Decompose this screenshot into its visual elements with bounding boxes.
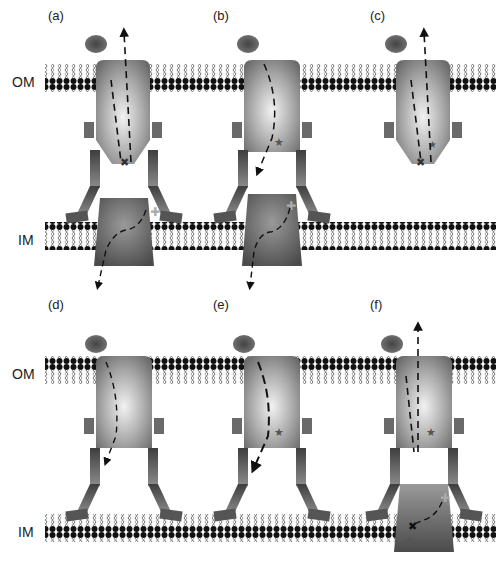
translocation-diagram: ✖ ✚ ★ ✚ ★ ✖ ★: [0, 0, 496, 563]
ligand: [385, 35, 407, 53]
panel-c: ★ ✖: [384, 32, 462, 169]
im-translocase: [94, 198, 154, 266]
svg-text:★: ★: [274, 136, 284, 149]
svg-text:★: ★: [274, 426, 284, 439]
ligand: [85, 335, 107, 353]
ligand: [237, 35, 259, 53]
svg-text:✖: ✖: [416, 156, 425, 169]
ligand: [381, 335, 403, 353]
ligand: [233, 335, 255, 353]
svg-text:★: ★: [404, 534, 414, 547]
svg-text:✖: ✖: [120, 156, 129, 169]
ligand: [85, 35, 107, 53]
svg-text:★: ★: [426, 426, 436, 439]
svg-text:✚: ✚: [286, 199, 296, 213]
svg-text:✚: ✚: [150, 205, 160, 219]
svg-text:✖: ✖: [408, 520, 417, 533]
